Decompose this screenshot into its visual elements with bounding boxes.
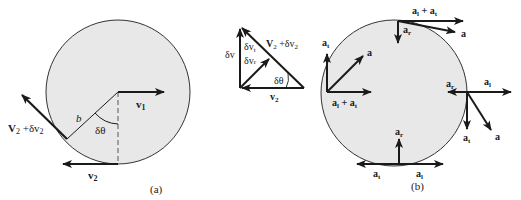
label-top-a: a xyxy=(461,28,466,39)
velocity-triangle: δv δvt δvr V2 +δv2 δθ v2 xyxy=(225,28,304,104)
label-dvt: δvt xyxy=(244,41,256,54)
label-right-at: at xyxy=(463,132,471,145)
label-left-at: at xyxy=(322,37,330,50)
caption-b: (b) xyxy=(411,180,424,193)
label-v2: v2 xyxy=(88,169,98,183)
label-top-sum: al + at xyxy=(412,5,438,18)
panel-b: al + at ar a at a al + at ar al at a ar … xyxy=(321,5,511,193)
right-a-arrow xyxy=(467,92,491,130)
label-dv: δv xyxy=(225,49,235,60)
figure-canvas: v1 b δθ V2 +δv2 v2 (a) δv δvt δvr V2 +δv… xyxy=(0,0,521,200)
caption-a: (a) xyxy=(150,183,163,196)
label-right-a: a xyxy=(495,131,500,142)
label-delta-theta-a: δθ xyxy=(95,124,105,136)
label-base-v2: v2 xyxy=(270,91,279,104)
label-delta-theta-tri: δθ xyxy=(274,75,284,86)
label-bottom-left: at xyxy=(373,168,381,181)
label-dvr: δvr xyxy=(244,55,257,66)
label-hyp: V2 +δv2 xyxy=(266,38,299,51)
triangle-angle-arc xyxy=(286,73,289,88)
label-right-al: al xyxy=(484,76,491,89)
panel-a: v1 b δθ V2 +δv2 v2 (a) xyxy=(8,20,190,196)
label-left-a: a xyxy=(367,47,372,58)
label-b: b xyxy=(76,112,82,124)
label-v2-plus-dv2: V2 +δv2 xyxy=(8,122,44,136)
